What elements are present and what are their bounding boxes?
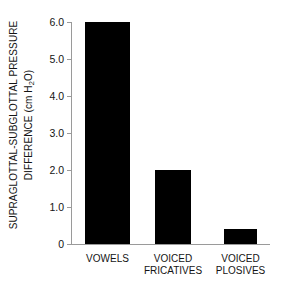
y-tick-label: 4.0 <box>49 90 64 102</box>
category-label-line: PLOSIVES <box>191 265 282 277</box>
y-tick-label: 0 <box>58 238 64 250</box>
y-tick-mark <box>67 96 71 97</box>
y-tick-mark <box>67 59 71 60</box>
y-tick-mark <box>67 207 71 208</box>
y-tick-label: 6.0 <box>49 16 64 28</box>
y-axis-label: SUPRAGLOTTAL-SUBGLOTTAL PRESSURE DIFFERE… <box>4 0 40 250</box>
x-axis-category-label: VOICEDPLOSIVES <box>191 253 282 277</box>
y-tick-mark <box>67 133 71 134</box>
category-label-line: VOICED <box>191 253 282 265</box>
y-axis-label-line2-post: O) <box>23 70 34 81</box>
bar <box>85 22 130 244</box>
plot-area: 6.05.04.03.02.01.00 <box>71 22 270 245</box>
bar <box>224 229 257 244</box>
y-tick-mark <box>67 170 71 171</box>
x-axis-line <box>71 244 270 245</box>
y-axis-label-line1: SUPRAGLOTTAL-SUBGLOTTAL PRESSURE <box>6 21 21 230</box>
y-tick-mark <box>67 22 71 23</box>
bar <box>155 170 191 244</box>
y-axis-label-line2-pre: DIFFERENCE (cm H <box>23 85 34 180</box>
y-tick-label: 2.0 <box>49 164 64 176</box>
y-axis-line <box>71 22 72 245</box>
y-tick-label: 1.0 <box>49 201 64 213</box>
y-axis-label-line2: DIFFERENCE (cm H2O) <box>21 21 39 230</box>
bar-chart-figure: SUPRAGLOTTAL-SUBGLOTTAL PRESSURE DIFFERE… <box>0 0 281 296</box>
y-axis-label-subscript: 2 <box>27 81 36 85</box>
y-tick-label: 3.0 <box>49 127 64 139</box>
y-tick-mark <box>67 244 71 245</box>
y-tick-label: 5.0 <box>49 53 64 65</box>
